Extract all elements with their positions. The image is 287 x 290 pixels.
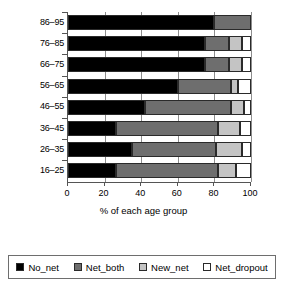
bar-segment-net_dropout — [244, 100, 251, 115]
bar-row — [68, 100, 251, 115]
x-axis-tickmark — [104, 182, 105, 186]
bar-row — [68, 142, 251, 157]
legend-item-net_dropout[interactable]: Net_dropout — [203, 262, 267, 273]
legend-label: Net_both — [86, 262, 125, 273]
gridline — [251, 12, 252, 182]
x-axis-title: % of each age group — [0, 205, 287, 216]
bar-segment-no_net — [68, 142, 132, 157]
bar-segment-new_net — [218, 121, 240, 136]
y-axis-tick-label: 76–85 — [16, 39, 64, 48]
bar-segment-no_net — [68, 79, 178, 94]
y-axis-tick-label: 26–35 — [16, 145, 64, 154]
x-axis-tick-label: 100 — [235, 188, 265, 198]
x-axis-tick-label: 0 — [52, 188, 82, 198]
bar-segment-net_dropout — [242, 36, 251, 51]
bar-segment-net_both — [214, 15, 251, 30]
y-axis-tick-label: 86–95 — [16, 18, 64, 27]
bar-segment-no_net — [68, 57, 205, 72]
bar-row — [68, 57, 251, 72]
bar-segment-no_net — [68, 121, 116, 136]
legend-label: Net_dropout — [215, 262, 267, 273]
legend-swatch-icon — [16, 263, 24, 271]
stacked-bar-chart-figure: 86–9576–8566–7556–6546–5536–4526–3516–25… — [0, 0, 287, 290]
chart-legend: No_netNet_bothNew_netNet_dropout — [8, 255, 276, 279]
x-axis-tickmark — [140, 182, 141, 186]
bar-row — [68, 79, 251, 94]
bar-segment-no_net — [68, 100, 145, 115]
legend-swatch-icon — [74, 263, 82, 271]
y-axis-tick-label: 36–45 — [16, 124, 64, 133]
x-axis-tickmark — [213, 182, 214, 186]
y-axis-tick-label: 66–75 — [16, 60, 64, 69]
legend-item-new_net[interactable]: New_net — [139, 262, 189, 273]
bar-segment-net_both — [116, 163, 218, 178]
x-axis-tick-label: 20 — [89, 188, 119, 198]
bar-segment-net_both — [132, 142, 216, 157]
bar-segment-net_both — [178, 79, 231, 94]
bar-segment-new_net — [218, 163, 236, 178]
x-axis-tickmark — [67, 182, 68, 186]
y-axis-tick-label: 46–55 — [16, 102, 64, 111]
legend-label: New_net — [151, 262, 189, 273]
x-axis-tick-label: 40 — [125, 188, 155, 198]
x-axis-tickmark — [177, 182, 178, 186]
legend-label: No_net — [28, 262, 59, 273]
axes-frame — [67, 12, 252, 182]
bar-segment-net_dropout — [238, 79, 251, 94]
y-axis-labels: 86–9576–8566–7556–6546–5536–4526–3516–25 — [12, 0, 64, 200]
bar-row — [68, 36, 251, 51]
bar-segment-net_both — [205, 36, 229, 51]
y-axis-tick-label: 56–65 — [16, 81, 64, 90]
y-axis-tick-label: 16–25 — [16, 166, 64, 175]
bar-segment-no_net — [68, 15, 214, 30]
legend-item-net_both[interactable]: Net_both — [74, 262, 125, 273]
bar-segment-net_dropout — [240, 121, 251, 136]
bar-segment-new_net — [229, 57, 242, 72]
legend-swatch-icon — [139, 263, 147, 271]
bar-segment-no_net — [68, 36, 205, 51]
bar-segment-new_net — [229, 36, 242, 51]
bar-segment-net_dropout — [242, 142, 251, 157]
bar-segment-net_both — [145, 100, 231, 115]
bar-segment-new_net — [216, 142, 242, 157]
legend-swatch-icon — [203, 263, 211, 271]
bar-segment-new_net — [231, 79, 238, 94]
bar-row — [68, 163, 251, 178]
bar-segment-new_net — [231, 100, 244, 115]
bar-segment-no_net — [68, 163, 116, 178]
plot-area: 86–9576–8566–7556–6546–5536–4526–3516–25… — [0, 0, 287, 200]
x-axis-tick-label: 80 — [198, 188, 228, 198]
bar-row — [68, 15, 251, 30]
bar-row — [68, 121, 251, 136]
x-axis-line — [67, 182, 251, 183]
bar-segment-net_both — [116, 121, 218, 136]
bar-segment-net_dropout — [242, 57, 251, 72]
x-axis-tick-label: 60 — [162, 188, 192, 198]
bar-segment-net_both — [205, 57, 229, 72]
legend-item-no_net[interactable]: No_net — [16, 262, 59, 273]
bar-segment-net_dropout — [236, 163, 251, 178]
x-axis-tickmark — [250, 182, 251, 186]
